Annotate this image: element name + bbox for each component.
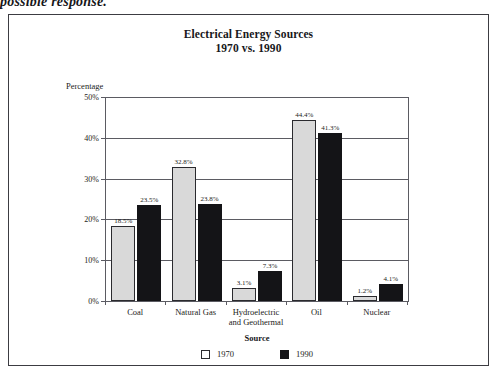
bar-1970-hydroelectric-and-geothermal: 3.1%: [232, 288, 256, 301]
legend-label-1990: 1990: [296, 349, 313, 359]
top-caption-text: possible response.: [0, 0, 300, 12]
bar-1990-oil: 41.3%: [318, 133, 342, 302]
y-axis-title: Percentage: [66, 81, 103, 91]
chart-title: Electrical Energy Sources: [9, 27, 488, 41]
bar-1970-coal: 18.5%: [111, 226, 135, 301]
dark-swatch-icon: [280, 350, 289, 359]
y-tick-label: 50%: [84, 93, 99, 102]
x-category-label: Natural Gas: [175, 307, 216, 317]
plot-right-border: [408, 97, 409, 301]
y-tick-mark: [101, 138, 105, 139]
bar-value-label: 23.5%: [140, 196, 158, 204]
bar-group: 3.1%7.3%: [227, 97, 287, 301]
bar-1990-natural-gas: 23.8%: [198, 204, 222, 301]
bar-value-label: 7.3%: [263, 262, 278, 270]
bar-value-label: 32.8%: [175, 158, 193, 166]
plot-area: 0%10%20%30%40%50% 18.5%23.5%32.8%23.8%3.…: [105, 97, 409, 301]
bars-layer: 18.5%23.5%32.8%23.8%3.1%7.3%44.4%41.3%1.…: [106, 97, 408, 301]
bar-1970-natural-gas: 32.8%: [172, 167, 196, 301]
bar-value-label: 18.5%: [114, 217, 132, 225]
x-category-label: Oil: [311, 307, 322, 317]
y-tick-mark: [101, 260, 105, 261]
chart-subtitle: 1970 vs. 1990: [9, 41, 488, 55]
x-category-label: Coal: [127, 307, 143, 317]
y-tick-label: 20%: [84, 215, 99, 224]
legend-label-1970: 1970: [217, 349, 234, 359]
bar-1970-oil: 44.4%: [292, 120, 316, 301]
bar-1990-hydroelectric-and-geothermal: 7.3%: [258, 271, 282, 301]
figure-frame: Electrical Energy Sources 1970 vs. 1990 …: [8, 14, 489, 366]
x-tick-mark: [347, 301, 348, 305]
y-tick-mark: [101, 219, 105, 220]
gridline: [105, 301, 409, 302]
bar-1970-nuclear: 1.2%: [353, 296, 377, 301]
bar-group: 32.8%23.8%: [166, 97, 226, 301]
bar-group: 18.5%23.5%: [106, 97, 166, 301]
x-tick-mark: [226, 301, 227, 305]
x-tick-mark: [286, 301, 287, 305]
bar-group: 1.2%4.1%: [348, 97, 408, 301]
y-tick-mark: [101, 97, 105, 98]
y-tick-label: 10%: [84, 256, 99, 265]
legend-item-1970: 1970: [201, 349, 234, 359]
y-tick-mark: [101, 179, 105, 180]
x-category-label: Hydroelectric and Geothermal: [229, 307, 284, 327]
x-tick-mark: [165, 301, 166, 305]
legend-item-1990: 1990: [280, 349, 313, 359]
x-axis-title: Source: [105, 333, 409, 343]
bar-value-label: 3.1%: [237, 279, 252, 287]
x-tick-mark: [407, 301, 408, 305]
bar-value-label: 44.4%: [295, 111, 313, 119]
y-tick-label: 30%: [84, 174, 99, 183]
bar-1990-nuclear: 4.1%: [379, 284, 403, 301]
x-category-label: Nuclear: [363, 307, 390, 317]
bar-group: 44.4%41.3%: [287, 97, 347, 301]
bar-1990-coal: 23.5%: [137, 205, 161, 301]
bar-value-label: 4.1%: [383, 275, 398, 283]
x-tick-mark: [105, 301, 106, 305]
y-tick-label: 0%: [88, 297, 99, 306]
bar-value-label: 41.3%: [321, 124, 339, 132]
y-tick-label: 40%: [84, 133, 99, 142]
light-swatch-icon: [201, 350, 210, 359]
legend: 1970 1990: [105, 349, 409, 359]
bar-value-label: 23.8%: [201, 195, 219, 203]
bar-value-label: 1.2%: [357, 287, 372, 295]
